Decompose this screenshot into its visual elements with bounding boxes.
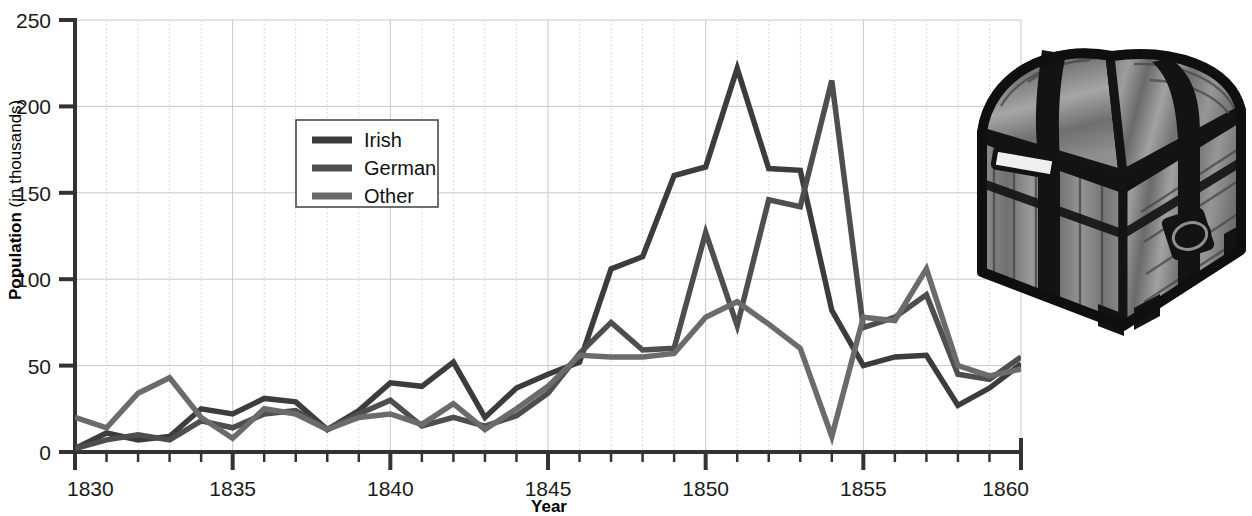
chart-page: 0501001502002501830183518401845185018551… [0,0,1252,516]
x-axis-tick-label: 1835 [209,477,256,500]
x-axis-title-text: Year [531,497,567,516]
y-axis-tick-label: 0 [39,441,51,464]
chart-legend: IrishGermanOther [296,120,438,207]
x-axis-tick-label: 1850 [682,477,729,500]
x-axis-tick-label: 1840 [367,477,414,500]
y-axis-title: Population (in thousands) [6,100,25,300]
x-axis-tick-label: 1830 [67,477,114,500]
y-axis-title-regular: (in thousands) [6,100,25,212]
tick-label-layer: 0501001502002501830183518401845185018551… [16,9,1029,500]
svg-text:Population (in thousands): Population (in thousands) [6,100,25,300]
y-axis-tick-label: 50 [28,355,51,378]
x-axis-tick-label: 1855 [840,477,887,500]
y-axis-title-bold: Population [6,212,25,300]
axis-layer [59,20,1021,470]
legend-label-other: Other [364,185,414,207]
legend-label-german: German [364,157,436,179]
population-line-chart: 0501001502002501830183518401845185018551… [0,0,1252,516]
x-axis-tick-label: 1860 [982,477,1029,500]
y-axis-tick-label: 250 [16,9,51,32]
legend-label-irish: Irish [364,129,402,151]
x-axis-title: Year [531,497,567,516]
